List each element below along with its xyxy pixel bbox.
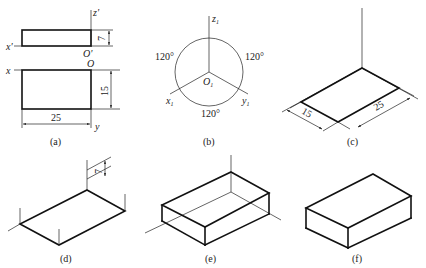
panel-a: x' z' O' 7 x O y 15 25 (a) xyxy=(5,7,120,148)
angle-label-bottom: 120° xyxy=(201,108,220,119)
caption-d: (d) xyxy=(60,253,72,265)
x-label: x xyxy=(5,65,11,76)
dim-height-7: 7 xyxy=(93,169,104,174)
dim-length-25: 25 xyxy=(51,112,61,123)
caption-a: (a) xyxy=(50,136,61,148)
x1-label: x1 xyxy=(165,95,173,107)
panel-c: 15 25 (c) xyxy=(282,8,418,148)
o-label: O xyxy=(87,58,94,69)
dim-length-25: 25 xyxy=(372,98,386,113)
caption-e: (e) xyxy=(205,253,216,265)
caption-f: (f) xyxy=(352,253,362,265)
base-face xyxy=(20,190,125,245)
base-face xyxy=(301,68,399,122)
y1-label: y1 xyxy=(241,95,249,107)
top-view-rect xyxy=(22,70,91,109)
angle-label-left: 120° xyxy=(155,51,174,62)
panel-d: 7 (d) xyxy=(8,157,125,265)
y-label: y xyxy=(94,121,100,132)
panel-f: (f) xyxy=(306,174,411,265)
o1-label: O1 xyxy=(203,76,213,88)
z1-label: z1 xyxy=(211,13,219,25)
top-face xyxy=(306,174,411,228)
dim-height-7: 7 xyxy=(96,36,107,41)
x-prime-label: x' xyxy=(5,41,13,52)
isometric-construction-figure: x' z' O' 7 x O y 15 25 (a) z1 x1 y1 O1 xyxy=(0,0,426,268)
dim-depth-15: 15 xyxy=(99,86,110,96)
front-view-rect xyxy=(22,30,91,46)
panel-e: (e) xyxy=(145,155,281,265)
z-prime-label: z' xyxy=(92,7,100,18)
caption-b: (b) xyxy=(203,136,215,148)
y1-axis xyxy=(209,72,248,94)
angle-label-right: 120° xyxy=(245,51,264,62)
caption-c: (c) xyxy=(347,136,358,148)
panel-b: z1 x1 y1 O1 120° 120° 120° (b) xyxy=(155,13,264,148)
